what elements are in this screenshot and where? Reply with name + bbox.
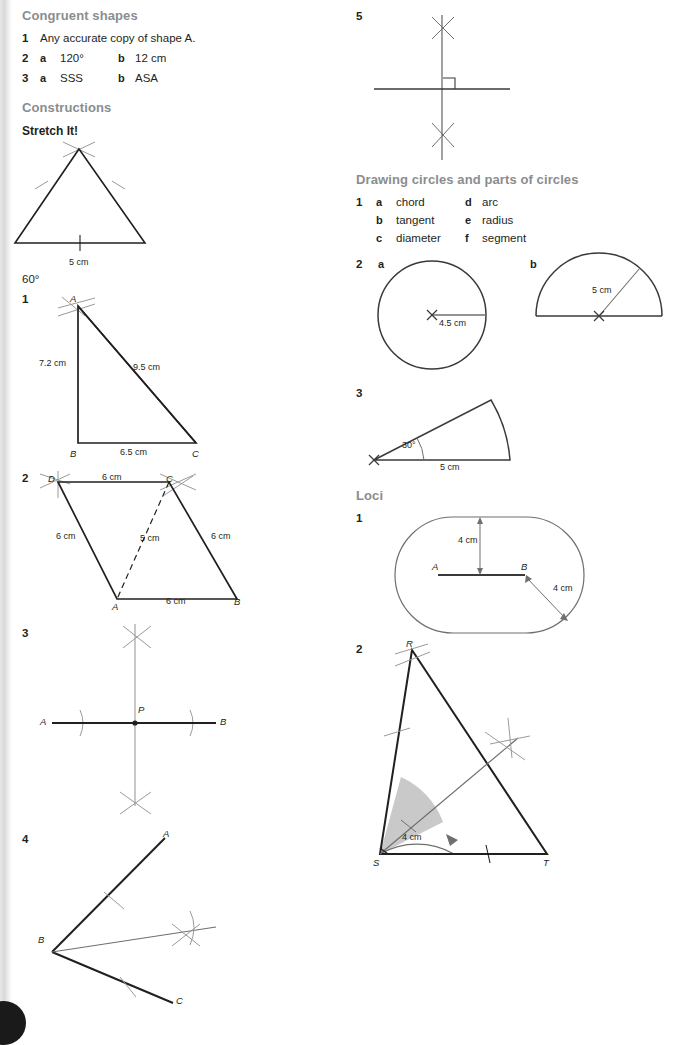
question-number-1: 1 [22,32,28,44]
sector-angle-label: 30° [402,440,416,450]
point-label-c: C [192,448,199,459]
part-label-2b: b [118,52,125,64]
left-column: Congruent shapes 1 Any accurate copy of … [0,0,340,1025]
part-label-2b-semicircle: b [530,258,537,270]
point-label-b4: B [38,934,44,945]
point-label-p: P [138,704,144,715]
point-label-c2: C [166,473,173,484]
sector-30-degrees-diagram [340,385,674,485]
part-label-1c: c [376,232,382,244]
answer-2b: 12 cm [135,52,166,64]
answer-tangent: tangent [396,214,434,226]
perpendicular-at-point-diagram [340,5,660,165]
dimension-locus-top: 4 cm [458,535,478,545]
answer-3a: SSS [60,72,83,84]
page-number-tab [0,1001,26,1045]
equilateral-triangle-diagram [0,135,220,260]
point-label-b: B [70,448,76,459]
point-label-a3: A [40,716,46,727]
dimension-da: 6 cm [56,531,76,541]
perpendicular-bisector-diagram [0,620,270,810]
dimension-ab: 7.2 cm [39,358,66,368]
heading-drawing-circles: Drawing circles and parts of circles [356,172,579,187]
sector-radius-label: 5 cm [440,462,460,472]
dimension-circle-radius: 4.5 cm [439,318,466,328]
answer-3b: ASA [135,72,158,84]
dimension-locus-right: 4 cm [553,583,573,593]
dimension-locus-arc-radius: 4 cm [402,832,422,842]
part-label-1e: e [465,214,471,226]
dimension-diagonal: 5 cm [140,533,160,543]
question-number-2: 2 [22,52,28,64]
heading-constructions: Constructions [22,100,111,115]
dimension-ab2: 6 cm [166,596,186,606]
point-label-b2: B [234,596,240,607]
dimension-ac: 9.5 cm [133,362,160,372]
question-number-3: 3 [22,72,28,84]
point-label-a4: A [163,828,169,839]
point-label-a2: A [112,601,118,612]
circle-and-semicircle-diagram [340,255,674,385]
question-number-ci1: 1 [356,196,362,208]
answer-segment: segment [482,232,526,244]
answer-1-text: Any accurate copy of shape A. [40,32,195,44]
part-label-1d: d [465,196,472,208]
equilateral-base-dimension: 5 cm [69,257,89,267]
point-label-a: A [70,293,76,304]
dimension-bc: 6.5 cm [120,447,147,457]
angle-bisector-diagram [0,825,270,1005]
point-label-b3: B [220,716,226,727]
point-label-d: D [48,473,55,484]
answer-2a: 120° [60,52,84,64]
part-label-1b: b [376,214,383,226]
dimension-semicircle-radius: 5 cm [592,285,612,295]
dimension-cb: 6 cm [211,531,231,541]
equilateral-angle-answer: 60° [22,273,39,285]
right-column: 5 Drawing circles and parts of circles 1… [340,0,674,1025]
heading-congruent-shapes: Congruent shapes [22,8,138,23]
point-label-c4: C [176,995,183,1006]
answer-radius: radius [482,214,513,226]
point-label-b-locus: B [521,561,527,572]
answer-arc: arc [482,196,498,208]
heading-loci: Loci [356,488,383,503]
point-label-a-locus: A [432,561,438,572]
answer-chord: chord [396,196,425,208]
part-label-1a: a [376,196,382,208]
answer-diameter: diameter [396,232,441,244]
part-label-3b: b [118,72,125,84]
dimension-dc: 6 cm [102,472,122,482]
point-label-s: S [373,857,379,868]
locus-triangle-rst-diagram [340,640,674,865]
point-label-r: R [406,638,413,649]
part-label-3a: a [40,72,46,84]
locus-capsule-diagram [340,505,674,640]
part-label-1f: f [465,232,469,244]
point-label-t: T [543,857,549,868]
triangle-abc-diagram [0,290,260,460]
part-label-2a: a [40,52,46,64]
